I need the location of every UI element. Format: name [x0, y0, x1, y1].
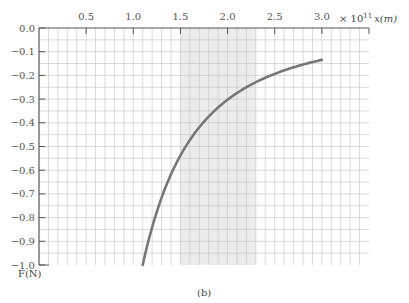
y-tick-label: −0.1 [11, 46, 35, 57]
x-tick-label: 2.0 [220, 11, 236, 22]
y-tick-label: −0.9 [11, 236, 35, 247]
y-axis-label: F(N) [18, 268, 42, 279]
y-tick-label: −0.4 [11, 117, 35, 128]
figure-caption: (b) [197, 287, 211, 298]
x-tick-label: 1.5 [172, 11, 188, 22]
x-multiplier-exponent: 11 [363, 12, 372, 20]
x-tick-label: 3.0 [314, 11, 330, 22]
grid [39, 28, 369, 265]
x-tick-label: 0.5 [78, 11, 94, 22]
y-tick-label: 0.0 [19, 23, 35, 34]
y-tick-label: −0.7 [11, 188, 35, 199]
y-tick-labels: 0.0−0.1−0.2−0.3−0.4−0.5−0.6−0.7−0.8−0.9−… [11, 23, 45, 271]
x-tick-label: 2.5 [267, 11, 283, 22]
y-tick-label: −0.8 [11, 212, 35, 223]
x-tick-label: 1.0 [125, 11, 141, 22]
y-tick-label: −0.2 [11, 70, 35, 81]
y-tick-label: −0.5 [11, 141, 35, 152]
x-multiplier: × 10 [339, 13, 363, 24]
x-axis-label: × 1011x(m) [339, 12, 397, 24]
y-tick-label: −0.3 [11, 94, 35, 105]
x-label: x(m) [374, 13, 397, 24]
y-tick-label: −0.6 [11, 165, 35, 176]
force-vs-distance-chart: 0.51.01.52.02.53.0 0.0−0.1−0.2−0.3−0.4−0… [0, 0, 409, 303]
